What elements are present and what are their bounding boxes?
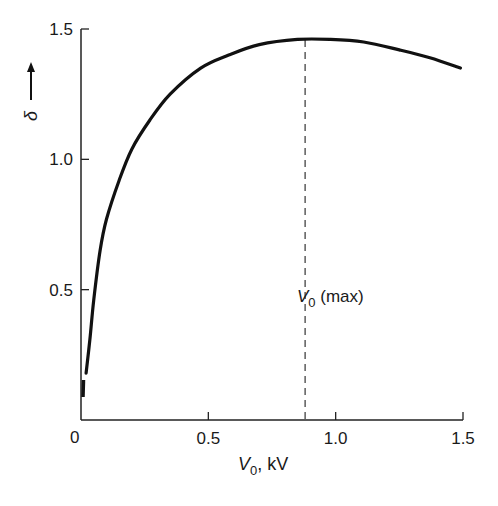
y-tick-label: 1.5 [49,20,73,39]
up-arrow-icon [27,62,35,100]
origin-label: 0 [70,428,79,447]
x-ticks: 0.51.01.5 [197,412,475,448]
y-tick-label: 0.5 [49,281,73,300]
x-tick-label: 1.5 [451,429,475,448]
vmax-annotation: V0 (max) [297,287,364,310]
x-tick-label: 1.0 [324,429,348,448]
y-axis-label: δ [21,62,41,121]
y-ticks: 0.51.01.5 [49,20,89,300]
axes [81,29,463,420]
y-axis-label-text: δ [21,110,41,121]
chart: 0.51.01.5 0.51.01.5 0 δ V0, kV V0 (max) [0,0,498,506]
x-tick-label: 0.5 [197,429,221,448]
curve-start-segment [83,380,84,397]
y-tick-label: 1.0 [49,150,73,169]
x-axis-label-sub: 0 [250,463,257,478]
x-axis-label: V0, kV [238,454,288,478]
svg-text:V0, kV: V0, kV [238,454,288,478]
x-axis-label-rest: , kV [257,454,288,474]
delta-curve [86,39,460,373]
